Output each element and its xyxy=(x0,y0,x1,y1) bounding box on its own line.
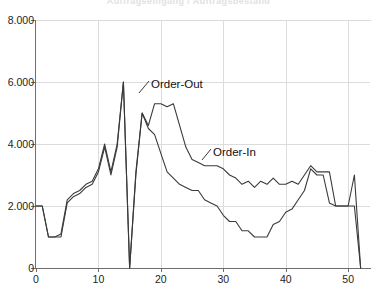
series-layer xyxy=(0,0,377,294)
annotation-leader-order-out xyxy=(139,81,149,93)
series-line-order-in xyxy=(36,82,361,268)
annotation-leader-order-in xyxy=(202,149,211,160)
chart-root: Auftragseingang / Auftragsbestand 02.000… xyxy=(0,0,377,294)
annotation-order-out: Order-Out xyxy=(151,78,203,90)
annotation-order-in: Order-In xyxy=(213,146,256,158)
series-line-order-out xyxy=(36,82,361,268)
